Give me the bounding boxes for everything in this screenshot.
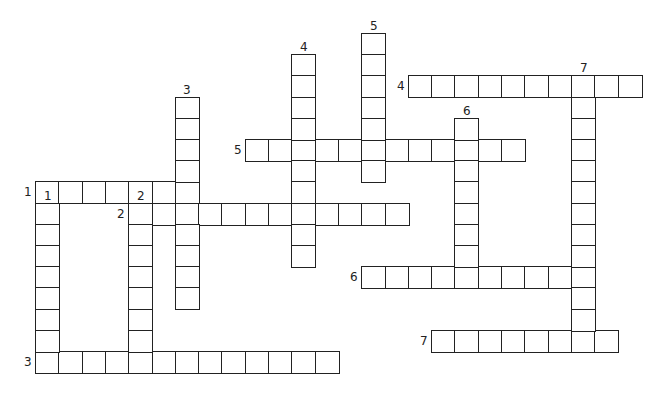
crossword-cell[interactable] xyxy=(454,181,479,204)
crossword-cell[interactable] xyxy=(128,309,153,332)
crossword-cell[interactable] xyxy=(175,97,200,120)
crossword-cell[interactable] xyxy=(478,266,503,289)
crossword-cell[interactable] xyxy=(315,139,340,162)
crossword-cell[interactable] xyxy=(571,245,596,268)
crossword-cell[interactable] xyxy=(105,351,130,374)
crossword-cell[interactable] xyxy=(128,351,153,374)
crossword-cell[interactable] xyxy=(175,203,200,226)
crossword-cell[interactable] xyxy=(175,139,200,162)
crossword-cell[interactable] xyxy=(152,181,177,204)
crossword-cell[interactable] xyxy=(315,203,340,226)
crossword-cell[interactable] xyxy=(361,266,386,289)
crossword-cell[interactable] xyxy=(175,181,200,204)
crossword-cell[interactable] xyxy=(291,224,316,247)
crossword-cell[interactable] xyxy=(175,351,200,374)
crossword-cell[interactable] xyxy=(35,330,60,353)
crossword-cell[interactable] xyxy=(291,97,316,120)
crossword-cell[interactable] xyxy=(385,139,410,162)
crossword-cell[interactable] xyxy=(548,266,573,289)
crossword-cell[interactable] xyxy=(571,330,596,353)
crossword-cell[interactable] xyxy=(105,181,130,204)
crossword-cell[interactable] xyxy=(198,351,223,374)
crossword-cell[interactable] xyxy=(291,351,316,374)
crossword-cell[interactable] xyxy=(478,330,503,353)
crossword-cell[interactable] xyxy=(221,203,246,226)
crossword-cell[interactable] xyxy=(571,160,596,183)
crossword-cell[interactable] xyxy=(35,245,60,268)
crossword-cell[interactable] xyxy=(152,203,177,226)
crossword-cell[interactable] xyxy=(35,287,60,310)
crossword-cell[interactable] xyxy=(315,351,340,374)
crossword-cell[interactable] xyxy=(548,75,573,98)
crossword-cell[interactable] xyxy=(454,224,479,247)
crossword-cell[interactable] xyxy=(361,118,386,141)
crossword-cell[interactable] xyxy=(478,75,503,98)
crossword-cell[interactable] xyxy=(618,75,643,98)
crossword-cell[interactable] xyxy=(338,139,363,162)
crossword-cell[interactable] xyxy=(408,75,433,98)
crossword-cell[interactable] xyxy=(245,203,270,226)
crossword-cell[interactable] xyxy=(431,139,456,162)
crossword-cell[interactable] xyxy=(571,309,596,332)
crossword-cell[interactable] xyxy=(594,330,619,353)
crossword-cell[interactable] xyxy=(35,203,60,226)
crossword-cell[interactable] xyxy=(291,203,316,226)
crossword-cell[interactable] xyxy=(291,181,316,204)
crossword-cell[interactable] xyxy=(245,139,270,162)
crossword-cell[interactable] xyxy=(35,351,60,374)
crossword-cell[interactable] xyxy=(385,266,410,289)
crossword-cell[interactable] xyxy=(454,160,479,183)
crossword-cell[interactable] xyxy=(175,245,200,268)
crossword-cell[interactable] xyxy=(35,309,60,332)
crossword-cell[interactable] xyxy=(501,266,526,289)
crossword-cell[interactable] xyxy=(454,75,479,98)
crossword-cell[interactable] xyxy=(128,266,153,289)
crossword-cell[interactable] xyxy=(361,75,386,98)
crossword-cell[interactable] xyxy=(268,203,293,226)
crossword-cell[interactable] xyxy=(35,266,60,289)
crossword-cell[interactable] xyxy=(454,266,479,289)
crossword-cell[interactable] xyxy=(291,75,316,98)
crossword-cell[interactable] xyxy=(291,245,316,268)
crossword-cell[interactable] xyxy=(548,330,573,353)
crossword-cell[interactable] xyxy=(175,266,200,289)
crossword-cell[interactable] xyxy=(571,266,596,289)
crossword-cell[interactable] xyxy=(501,139,526,162)
crossword-cell[interactable] xyxy=(361,203,386,226)
crossword-cell[interactable] xyxy=(571,75,596,98)
crossword-cell[interactable] xyxy=(594,75,619,98)
crossword-cell[interactable] xyxy=(361,33,386,56)
crossword-cell[interactable] xyxy=(82,351,107,374)
crossword-cell[interactable] xyxy=(524,330,549,353)
crossword-cell[interactable] xyxy=(35,224,60,247)
crossword-cell[interactable] xyxy=(385,203,410,226)
crossword-cell[interactable] xyxy=(82,181,107,204)
crossword-cell[interactable] xyxy=(175,287,200,310)
crossword-cell[interactable] xyxy=(361,160,386,183)
crossword-cell[interactable] xyxy=(128,330,153,353)
crossword-cell[interactable] xyxy=(268,139,293,162)
crossword-cell[interactable] xyxy=(268,351,293,374)
crossword-cell[interactable] xyxy=(175,118,200,141)
crossword-cell[interactable] xyxy=(338,203,363,226)
crossword-cell[interactable] xyxy=(571,97,596,120)
crossword-cell[interactable] xyxy=(58,351,83,374)
crossword-cell[interactable] xyxy=(245,351,270,374)
crossword-cell[interactable] xyxy=(221,351,246,374)
crossword-cell[interactable] xyxy=(454,203,479,226)
crossword-cell[interactable] xyxy=(361,97,386,120)
crossword-cell[interactable] xyxy=(571,224,596,247)
crossword-cell[interactable] xyxy=(408,139,433,162)
crossword-cell[interactable] xyxy=(128,224,153,247)
crossword-cell[interactable] xyxy=(152,351,177,374)
crossword-cell[interactable] xyxy=(571,139,596,162)
crossword-cell[interactable] xyxy=(128,287,153,310)
crossword-cell[interactable] xyxy=(128,245,153,268)
crossword-cell[interactable] xyxy=(361,139,386,162)
crossword-cell[interactable] xyxy=(571,287,596,310)
crossword-cell[interactable] xyxy=(501,75,526,98)
crossword-cell[interactable] xyxy=(291,118,316,141)
crossword-cell[interactable] xyxy=(454,139,479,162)
crossword-cell[interactable] xyxy=(128,203,153,226)
crossword-cell[interactable] xyxy=(291,160,316,183)
